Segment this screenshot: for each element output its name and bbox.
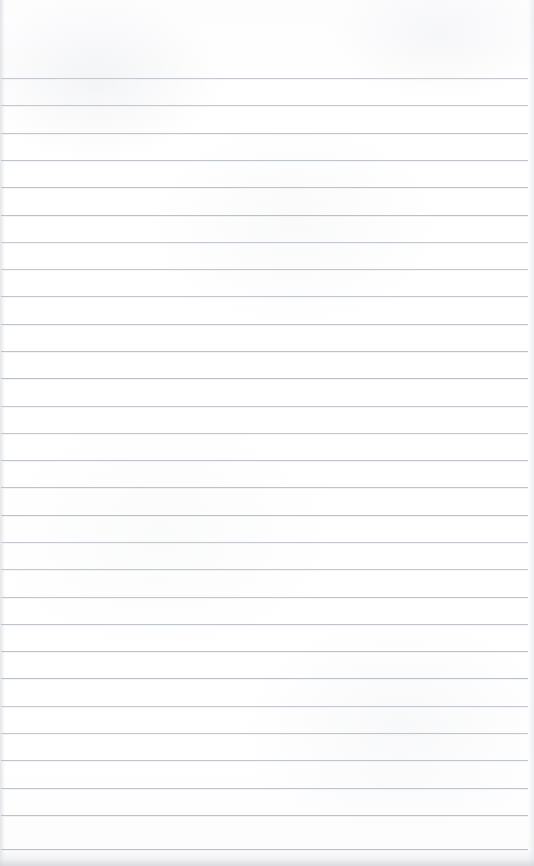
rule-line [1, 296, 528, 297]
rule-line [1, 160, 528, 161]
rule-line [1, 378, 528, 379]
paper-texture [0, 0, 534, 866]
rule-line [1, 105, 528, 106]
rule-line [1, 215, 528, 216]
bottom-edge-shadow [0, 850, 534, 866]
rule-line [1, 515, 528, 516]
ruled-lines-group [0, 0, 534, 866]
rule-line [1, 406, 528, 407]
right-edge-shadow [528, 0, 534, 866]
rule-line [1, 242, 528, 243]
rule-line [1, 597, 528, 598]
rule-line [1, 624, 528, 625]
rule-line [1, 351, 528, 352]
rule-line [1, 733, 528, 734]
rule-line [1, 849, 528, 850]
rule-line [1, 187, 528, 188]
lined-paper-page [0, 0, 534, 866]
rule-line [1, 487, 528, 488]
rule-line [1, 569, 528, 570]
rule-line [1, 78, 528, 79]
rule-line [1, 324, 528, 325]
rule-line [1, 433, 528, 434]
rule-line [1, 788, 528, 789]
rule-line [1, 760, 528, 761]
rule-line [1, 706, 528, 707]
rule-line [1, 542, 528, 543]
rule-line [1, 678, 528, 679]
left-edge-shadow [0, 0, 5, 866]
rule-line [1, 269, 528, 270]
top-margin-blank-area [0, 0, 534, 78]
rule-line [1, 133, 528, 134]
rule-line [1, 815, 528, 816]
rule-line [1, 460, 528, 461]
rule-line [1, 651, 528, 652]
